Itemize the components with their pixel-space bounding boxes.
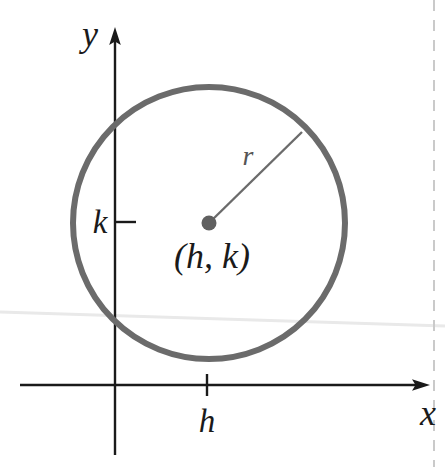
scan-artifact-group bbox=[0, 0, 445, 467]
radius-segment bbox=[209, 132, 302, 223]
y-axis-label: y bbox=[79, 14, 98, 54]
center-point-dot bbox=[202, 216, 217, 231]
x-axis-label: x bbox=[419, 393, 436, 433]
circle-diagram-figure: y x k h (h, k) r bbox=[0, 0, 445, 467]
scan-streak-line bbox=[0, 312, 445, 326]
y-tick-label-k: k bbox=[93, 204, 109, 240]
center-coordinates-label: (h, k) bbox=[174, 236, 250, 276]
x-tick-label-h: h bbox=[199, 403, 216, 439]
diagram-canvas: y x k h (h, k) r bbox=[0, 0, 445, 467]
radius-label: r bbox=[243, 140, 254, 171]
